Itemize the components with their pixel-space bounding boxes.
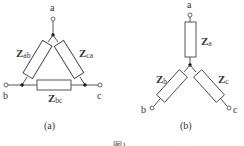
delta-terminal-a: [51, 17, 55, 21]
star-circuit: a Za b Zb c Zc (b): [141, 0, 238, 132]
delta-terminal-b: [4, 83, 8, 87]
star-terminal-c-label: c: [233, 104, 238, 115]
star-impedance-zb: [154, 65, 190, 106]
star-terminal-c: [227, 106, 231, 110]
circuit-diagram: a Zab Zca Zbc b: [0, 0, 244, 146]
figure-caption: 图1: [113, 141, 127, 146]
star-impedance-zc: [190, 65, 227, 106]
star-terminal-b-label: b: [141, 104, 146, 115]
delta-zbc-label: Zbc: [48, 92, 63, 105]
star-zb-label: Zb: [156, 73, 167, 86]
delta-impedance-zca: [53, 35, 85, 85]
star-zc-label: Zc: [218, 73, 229, 86]
panel-b-label: (b): [180, 120, 192, 132]
delta-terminal-a-label: a: [50, 2, 55, 13]
delta-circuit: a Zab Zca Zbc b: [3, 2, 102, 132]
star-terminal-b: [150, 106, 154, 110]
delta-impedance-zab: [22, 35, 53, 85]
delta-terminal-c-label: c: [97, 90, 102, 101]
delta-zab-label: Zab: [16, 47, 31, 60]
panel-a-label: (a): [44, 120, 55, 132]
delta-zca-label: Zca: [79, 47, 94, 60]
star-terminal-a-label: a: [187, 0, 192, 10]
star-za-label: Za: [201, 35, 212, 48]
delta-terminal-c: [98, 83, 102, 87]
delta-impedance-zbc: [22, 80, 85, 90]
star-terminal-a: [188, 13, 192, 17]
star-impedance-za: [185, 22, 196, 57]
delta-terminal-b-label: b: [3, 90, 8, 101]
